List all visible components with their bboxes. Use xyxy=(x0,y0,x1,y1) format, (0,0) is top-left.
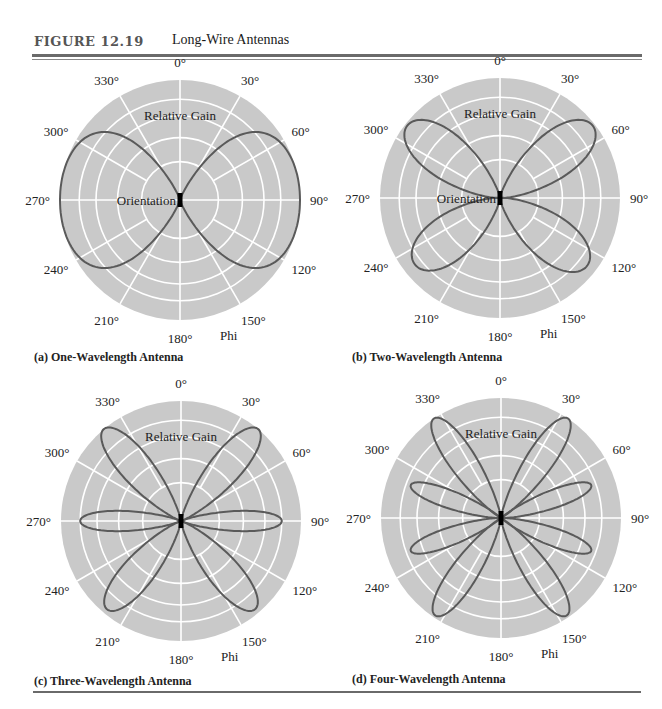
angle-tick-label: 0° xyxy=(495,373,507,388)
angle-tick-label: 330° xyxy=(415,391,440,406)
footer-rule xyxy=(33,691,641,693)
angle-tick-label: 30° xyxy=(562,391,580,406)
caption-c: (c) Three-Wavelength Antenna xyxy=(34,674,192,689)
angle-tick-label: 180° xyxy=(489,649,514,664)
angle-tick-label: 240° xyxy=(365,580,390,595)
angle-tick-label: 210° xyxy=(415,631,440,646)
angle-tick-label: 90° xyxy=(631,511,649,526)
angle-tick-label: 300° xyxy=(365,442,390,457)
angle-tick-label: 150° xyxy=(562,631,587,646)
caption-a: (a) One-Wavelength Antenna xyxy=(34,350,183,365)
angle-tick-label: 120° xyxy=(613,580,638,595)
angle-tick-label: 60° xyxy=(613,442,631,457)
caption-b: (b) Two-Wavelength Antenna xyxy=(352,350,502,365)
radial-axis-label: Relative Gain xyxy=(465,426,537,441)
antenna-wire-icon xyxy=(499,511,504,525)
caption-d: (d) Four-Wavelength Antenna xyxy=(352,672,506,687)
phi-axis-label: Phi xyxy=(541,646,559,661)
angle-tick-label: 270° xyxy=(346,511,371,526)
